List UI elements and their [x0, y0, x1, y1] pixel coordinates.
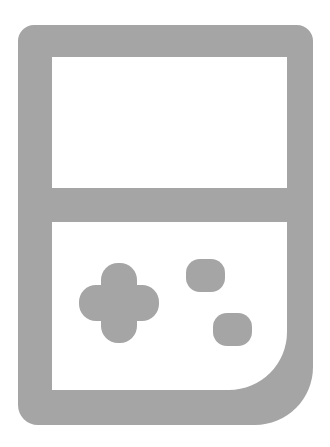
action-button-bottom-shape[interactable] [213, 313, 252, 346]
action-button-top[interactable] [186, 259, 225, 292]
action-button-bottom[interactable] [213, 313, 252, 346]
icon-canvas: Handheld Game Console [0, 0, 330, 447]
console-body-outline [18, 25, 313, 425]
dpad-cross-icon[interactable] [79, 263, 159, 343]
action-button-top-shape[interactable] [186, 259, 225, 292]
dpad-control[interactable] [79, 263, 159, 343]
console-body-group [18, 25, 313, 425]
handheld-game-console-icon [0, 0, 330, 447]
